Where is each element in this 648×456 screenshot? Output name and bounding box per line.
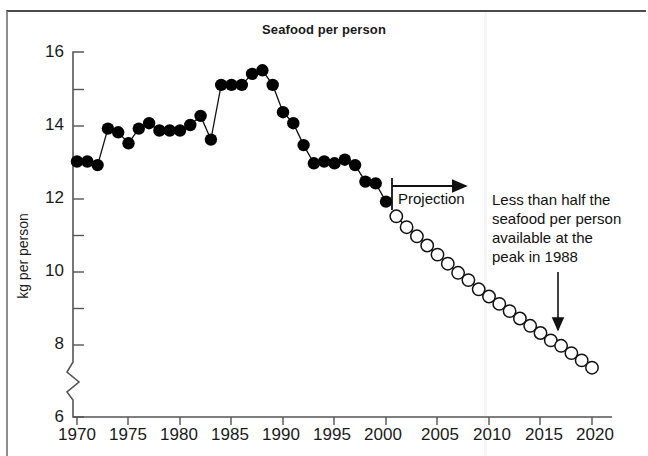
chart-figure: Seafood per person kg per person 16 14 1… (0, 0, 648, 456)
plot-area (0, 0, 648, 456)
data-point (462, 274, 474, 286)
data-point (287, 117, 299, 129)
series-historical (71, 64, 392, 208)
data-point (431, 248, 443, 260)
data-point (390, 210, 402, 222)
axis-lines (67, 52, 612, 417)
data-point (143, 117, 155, 129)
data-point (256, 64, 268, 76)
data-point (184, 119, 196, 131)
data-point (380, 195, 392, 207)
data-point (205, 133, 217, 145)
data-point (400, 221, 412, 233)
data-point (349, 159, 361, 171)
data-point (421, 239, 433, 251)
x-axis-ticks (77, 417, 592, 425)
data-point (359, 175, 371, 187)
data-point (277, 106, 289, 118)
data-point (411, 230, 423, 242)
data-point (112, 126, 124, 138)
data-point (122, 137, 134, 149)
data-point (586, 362, 598, 374)
data-point (308, 157, 320, 169)
data-point (194, 110, 206, 122)
y-axis-ticks (73, 90, 84, 346)
data-point (267, 79, 279, 91)
projection-arrow (392, 178, 466, 210)
series-projection (390, 210, 598, 374)
data-point (297, 139, 309, 151)
data-point (370, 177, 382, 189)
data-point (91, 159, 103, 171)
y-axis-with-break (67, 52, 84, 417)
data-point (236, 79, 248, 91)
data-point (318, 155, 330, 167)
data-point (442, 258, 454, 270)
